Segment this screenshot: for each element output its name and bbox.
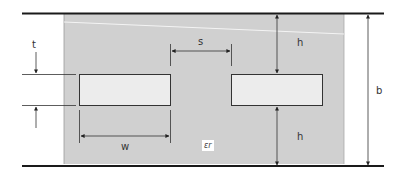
height-label-top-h: h	[297, 38, 303, 48]
width-label-w: w	[121, 142, 129, 152]
height-label-bottom-h: h	[297, 132, 303, 142]
thickness-label-t: t	[32, 40, 36, 50]
spacing-label-s: s	[198, 37, 203, 47]
right-strip	[232, 75, 323, 106]
left-strip	[80, 75, 171, 106]
separation-label-b: b	[376, 86, 382, 96]
stripline-diagram: t s h h w b εr	[0, 0, 403, 178]
permittivity-label-er: εr	[202, 140, 214, 151]
